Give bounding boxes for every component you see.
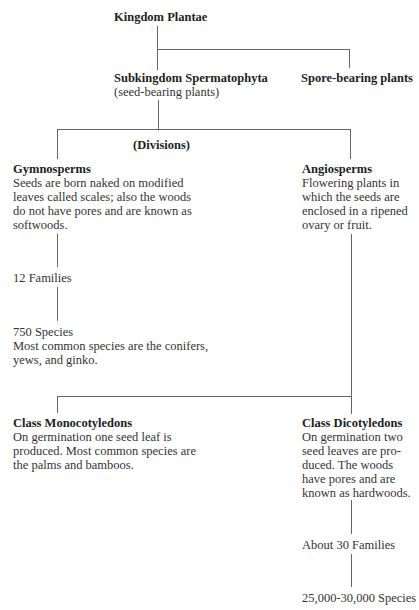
- connector-to-angiosperms: [350, 129, 351, 159]
- node-gymnosperms: Gymnosperms Seeds are born naked on modi…: [13, 162, 228, 232]
- node-gymno-families: 12 Families: [13, 271, 72, 285]
- node-angiosperms: Angiosperms Flowering plants in which th…: [302, 162, 419, 232]
- node-desc-line: produced. Most common species are: [13, 444, 233, 458]
- node-class-monocotyledons: Class Monocotyledons On germination one …: [13, 416, 233, 472]
- node-desc-line: On germination two: [302, 430, 419, 444]
- node-desc-line: enclosed in a ripened: [302, 204, 419, 218]
- node-title: Angiosperms: [302, 162, 419, 176]
- node-desc-line: Flowering plants in: [302, 176, 419, 190]
- families-count: 12 Families: [13, 271, 72, 285]
- node-title: Class Monocotyledons: [13, 416, 233, 430]
- node-desc-line: the palms and bamboos.: [13, 458, 233, 472]
- connector-root-down: [157, 26, 158, 70]
- node-desc-line: duced. The woods: [302, 458, 419, 472]
- node-dicot-species: 25,000-30,000 Species: [302, 591, 416, 605]
- connector-divisions-horizontal: [57, 129, 351, 130]
- connector-angio-down: [351, 234, 352, 414]
- connector-classes-horizontal: [57, 396, 352, 397]
- species-note-line: Most common species are the conifers,: [13, 339, 233, 353]
- node-title: Kingdom Plantae: [114, 10, 207, 24]
- connector-dicots-to-families: [351, 500, 352, 534]
- connector-to-monocots: [57, 396, 58, 413]
- node-spore-bearing-plants: Spore-bearing plants: [301, 71, 413, 85]
- node-kingdom-plantae: Kingdom Plantae: [114, 10, 207, 24]
- node-desc-line: ovary or fruit.: [302, 218, 419, 232]
- node-title: Spore-bearing plants: [301, 71, 413, 85]
- connector-subkingdom-down: [158, 100, 159, 130]
- connector-root-horizontal: [157, 49, 350, 50]
- node-title: Class Dicotyledons: [302, 416, 419, 430]
- connector-families-to-species: [57, 287, 58, 321]
- node-title: Subkingdom Spermatophyta: [114, 71, 268, 85]
- species-count: 25,000-30,000 Species: [302, 591, 416, 605]
- node-title: Gymnosperms: [13, 162, 228, 176]
- connector-families-to-species: [351, 554, 352, 587]
- divisions-label: (Divisions): [133, 138, 190, 152]
- node-desc-line: seed leaves are pro-: [302, 444, 419, 458]
- node-desc-line: have pores and are: [302, 472, 419, 486]
- node-desc-line: Seeds are born naked on modified: [13, 176, 228, 190]
- species-note-line: yews, and ginko.: [13, 353, 233, 367]
- connector-to-gymnosperms: [57, 129, 58, 159]
- connector-gymno-to-families: [57, 234, 58, 267]
- node-subkingdom-spermatophyta: Subkingdom Spermatophyta (seed-bearing p…: [114, 71, 268, 99]
- node-gymno-species: 750 Species Most common species are the …: [13, 325, 233, 367]
- node-desc-line: On germination one seed leaf is: [13, 430, 233, 444]
- node-subtitle: (seed-bearing plants): [114, 85, 268, 99]
- node-dicot-families: About 30 Families: [302, 538, 395, 552]
- node-desc-line: do not have pores and are known as: [13, 204, 228, 218]
- node-desc-line: softwoods.: [13, 218, 228, 232]
- node-desc-line: leaves called scales; also the woods: [13, 190, 228, 204]
- node-desc-line: known as hardwoods.: [302, 486, 419, 500]
- node-desc-line: which the seeds are: [302, 190, 419, 204]
- families-count: About 30 Families: [302, 538, 395, 552]
- connector-to-spore: [349, 49, 350, 68]
- species-count: 750 Species: [13, 325, 233, 339]
- node-class-dicotyledons: Class Dicotyledons On germination two se…: [302, 416, 419, 500]
